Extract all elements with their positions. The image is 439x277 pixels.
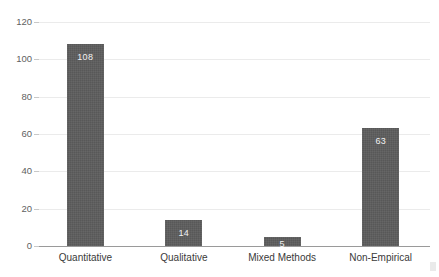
y-axis-tick-label: 0 <box>0 241 32 251</box>
bar-series: 10814563 <box>36 0 430 246</box>
x-axis-category-label: Qualitative <box>160 252 207 263</box>
x-axis-category-label: Non-Empirical <box>349 252 412 263</box>
bar-chart: 020406080100120 10814563 QuantitativeQua… <box>0 0 439 277</box>
x-axis-category-label: Mixed Methods <box>248 252 316 263</box>
y-axis-tick-label: 100 <box>0 54 32 64</box>
bar-value-label: 14 <box>165 229 202 238</box>
bar[interactable] <box>67 44 104 246</box>
bar-value-label: 108 <box>67 53 104 62</box>
axis-baseline <box>36 246 430 247</box>
y-axis-tick-label: 40 <box>0 166 32 176</box>
corner-artifact <box>430 262 436 271</box>
bar-value-label: 63 <box>362 137 399 146</box>
y-axis-tick-label: 120 <box>0 17 32 27</box>
x-axis-category-label: Quantitative <box>59 252 112 263</box>
y-axis-tick-label: 60 <box>0 129 32 139</box>
bar-value-label: 5 <box>264 240 301 249</box>
y-axis-tick-label: 20 <box>0 204 32 214</box>
y-axis-tick-label: 80 <box>0 92 32 102</box>
